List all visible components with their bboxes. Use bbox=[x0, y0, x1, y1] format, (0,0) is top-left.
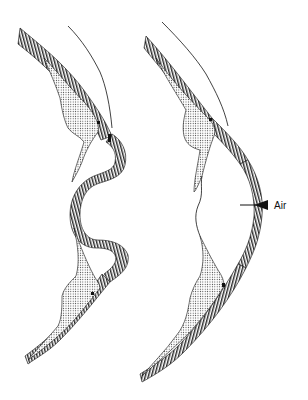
left-upper-marker bbox=[97, 121, 100, 124]
air-label: Air bbox=[274, 200, 287, 211]
right-panel: Air bbox=[140, 22, 287, 382]
left-lower-marker bbox=[91, 292, 94, 295]
left-panel bbox=[18, 26, 128, 364]
left-lower-stippled-mass bbox=[28, 228, 100, 360]
right-upper-marker bbox=[209, 118, 212, 121]
right-upper-stippled-mass bbox=[156, 58, 215, 192]
diagram-canvas: Air bbox=[0, 0, 308, 400]
right-lower-marker bbox=[222, 283, 225, 287]
right-bowed-hatched-arc bbox=[238, 160, 262, 268]
left-junction-marker bbox=[108, 134, 111, 142]
